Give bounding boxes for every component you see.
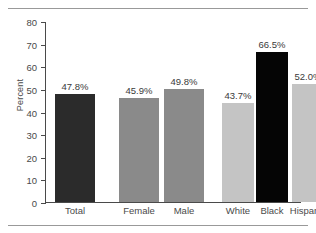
y-tick-mark xyxy=(41,22,45,23)
y-tick-label: 30 xyxy=(26,130,37,141)
bar-value-label: 49.8% xyxy=(171,76,198,87)
y-tick-label: 0 xyxy=(32,198,37,209)
bar-female: 45.9%Female xyxy=(119,98,159,202)
bar-chart-figure: Percent 01020304050607080 47.8%Total45.9… xyxy=(0,12,316,222)
y-tick-mark xyxy=(41,158,45,159)
y-tick-mark xyxy=(41,203,45,204)
y-tick-mark xyxy=(41,67,45,68)
x-category-label: Male xyxy=(174,205,195,216)
x-category-label: Female xyxy=(123,205,155,216)
y-tick-label: 60 xyxy=(26,62,37,73)
x-category-label: Black xyxy=(260,205,283,216)
y-tick-mark xyxy=(41,113,45,114)
chart-page: Percent 01020304050607080 47.8%Total45.9… xyxy=(0,0,316,233)
bar-hispanic: 52.0%Hispanic xyxy=(292,84,316,202)
y-tick-mark xyxy=(41,45,45,46)
y-tick-mark xyxy=(41,135,45,136)
x-category-label: White xyxy=(226,205,250,216)
bar-value-label: 52.0% xyxy=(295,71,316,82)
y-axis-line xyxy=(45,22,46,204)
x-category-label: Hispanic xyxy=(290,205,316,216)
y-tick-label: 20 xyxy=(26,152,37,163)
bottom-divider-rule xyxy=(8,225,308,226)
bar-value-label: 43.7% xyxy=(225,90,252,101)
y-tick-label: 50 xyxy=(26,84,37,95)
y-tick-label: 80 xyxy=(26,17,37,28)
bar-black: 66.5%Black xyxy=(256,52,288,202)
y-axis-title: Percent xyxy=(15,55,25,135)
bar-value-label: 45.9% xyxy=(126,85,153,96)
y-tick-mark xyxy=(41,90,45,91)
y-tick-label: 40 xyxy=(26,107,37,118)
y-tick-mark xyxy=(41,180,45,181)
top-divider-rule xyxy=(8,8,308,9)
bar-total: 47.8%Total xyxy=(55,94,95,202)
x-axis-line xyxy=(45,202,301,203)
bar-white: 43.7%White xyxy=(222,103,254,202)
bar-value-label: 47.8% xyxy=(62,81,89,92)
x-category-label: Total xyxy=(65,205,85,216)
y-tick-label: 10 xyxy=(26,175,37,186)
bar-male: 49.8%Male xyxy=(164,89,204,202)
bar-value-label: 66.5% xyxy=(259,39,286,50)
plot-area: 01020304050607080 47.8%Total45.9%Female4… xyxy=(45,22,300,203)
y-tick-label: 70 xyxy=(26,39,37,50)
